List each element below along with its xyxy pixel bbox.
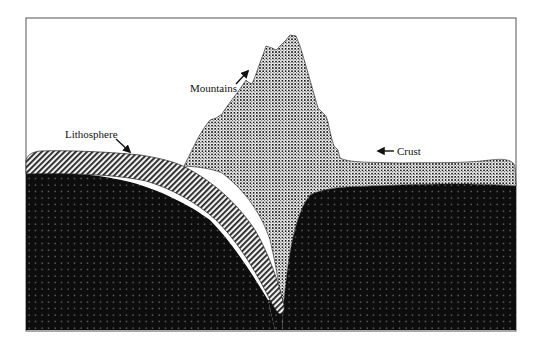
subduction-diagram: Mountains Lithosphere Crust	[0, 0, 537, 346]
lithosphere-label: Lithosphere	[65, 128, 118, 140]
crust-label: Crust	[397, 145, 421, 157]
mountains-label: Mountains	[190, 82, 237, 94]
